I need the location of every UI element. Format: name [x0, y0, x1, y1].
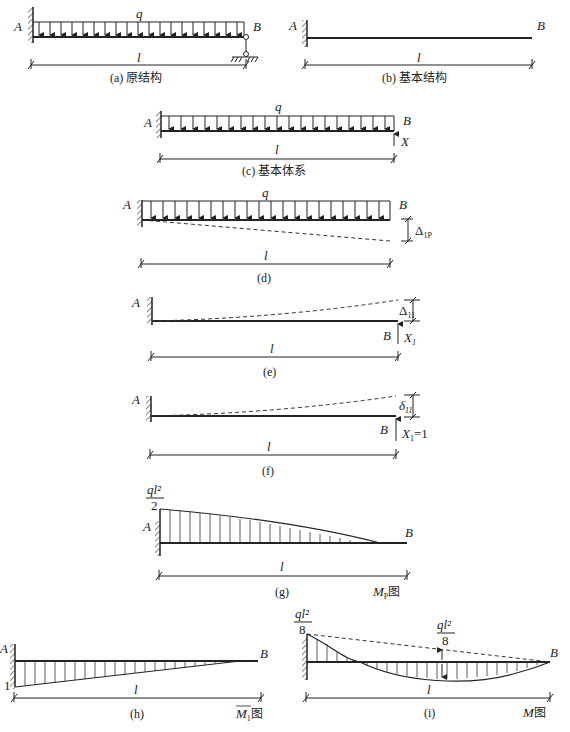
- figure-b-basic-structure: A B l (b) 基本结构: [288, 18, 545, 85]
- caption-b: (b) 基本结构: [382, 70, 447, 85]
- label-B: B: [550, 645, 558, 660]
- label-value-denominator: 2: [151, 498, 158, 513]
- dimension-line: [148, 351, 401, 361]
- label-span: l: [280, 559, 284, 574]
- moment-curve: [307, 634, 550, 681]
- label-diagram-MP: MP图: [372, 584, 400, 601]
- label-load-q: q: [275, 99, 282, 114]
- dimension-line: [147, 449, 399, 459]
- caption-e: (e): [263, 365, 276, 379]
- label-A: A: [131, 392, 140, 407]
- label-B: B: [537, 18, 545, 33]
- dashed-chord: [307, 634, 550, 662]
- moment-line: [15, 661, 240, 687]
- label-B: B: [405, 525, 413, 540]
- label-A: A: [0, 641, 8, 656]
- caption-d: (d): [257, 271, 271, 285]
- label-A: A: [142, 519, 151, 534]
- label-B: B: [403, 113, 411, 128]
- figure-d: A B q Δ1P l (d): [122, 185, 432, 285]
- figure-e: A B Δ11 X1 l (e): [131, 295, 420, 379]
- label-load-q: q: [136, 6, 143, 21]
- deflected-shape: [142, 220, 390, 241]
- label-value-1: 1: [4, 678, 11, 693]
- figure-c-basic-system: A B q X l (c) 基本体系: [143, 99, 411, 178]
- label-force-X1-unit: X1=1: [401, 426, 428, 443]
- label-B: B: [399, 197, 407, 212]
- label-B: B: [383, 328, 391, 343]
- label-mid-numerator: ql²: [437, 617, 452, 632]
- label-diagram-M1: M1图: [235, 706, 263, 723]
- label-span: l: [275, 142, 279, 157]
- label-mid-denominator: 8: [442, 633, 449, 648]
- label-B: B: [380, 422, 388, 437]
- diagram-canvas: A B q l (a) 原结构 A B l (b) 基本结构: [0, 0, 570, 732]
- label-B: B: [253, 19, 261, 34]
- label-A: A: [131, 295, 140, 310]
- label-force-X: X: [400, 134, 410, 149]
- caption-h: (h): [130, 707, 144, 721]
- label-span: l: [267, 439, 271, 454]
- label-delta-11: δ11: [399, 398, 412, 415]
- label-span: l: [417, 50, 421, 65]
- label-span: l: [134, 682, 138, 697]
- roller-support-icon: [231, 35, 258, 63]
- figure-a-original-structure: A B q l (a) 原结构: [13, 6, 261, 85]
- label-value-numerator: ql²: [295, 606, 310, 621]
- label-value-numerator: ql²: [147, 482, 162, 497]
- label-value-denominator: 8: [299, 622, 306, 637]
- label-A: A: [13, 19, 22, 34]
- distributed-load: [161, 116, 394, 131]
- caption-c: (c) 基本体系: [242, 164, 306, 178]
- distributed-load: [142, 201, 390, 220]
- label-A: A: [122, 197, 131, 212]
- label-B: B: [260, 646, 268, 661]
- label-A: A: [143, 115, 152, 130]
- moment-hatch-lines: [170, 510, 350, 543]
- displacement-dimension: [401, 216, 413, 244]
- label-delta-1P: Δ1P: [415, 223, 432, 240]
- label-span: l: [270, 341, 274, 356]
- label-A: A: [288, 18, 297, 33]
- caption-f: (f): [262, 464, 274, 478]
- figure-h-M1-diagram: A 1 B l (h) M1图: [0, 641, 268, 723]
- label-span: l: [137, 50, 141, 65]
- label-force-X1: X1: [403, 330, 416, 347]
- label-diagram-M: M图: [522, 705, 546, 720]
- label-load-q: q: [262, 185, 269, 200]
- label-span: l: [264, 248, 268, 263]
- figure-f: A B δ11 X1=1 l (f): [131, 392, 428, 478]
- label-span: l: [427, 682, 431, 697]
- figure-i-M-diagram: ql² 8 ql² 8 B l (i) M图: [294, 606, 558, 720]
- caption-g: (g): [275, 585, 289, 599]
- caption-i: (i): [424, 706, 435, 720]
- deflected-shape: [152, 300, 398, 321]
- distributed-load: [33, 22, 244, 37]
- caption-a: (a) 原结构: [110, 70, 162, 85]
- deflected-shape: [151, 396, 396, 416]
- figure-g-MP-diagram: ql² 2 A B l (g) MP图: [142, 482, 413, 601]
